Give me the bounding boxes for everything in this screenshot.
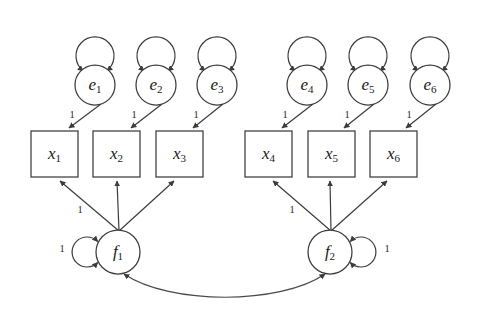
f2-loop xyxy=(350,237,376,267)
factor-covariance-layer xyxy=(124,274,325,297)
f2-loop-arc xyxy=(350,237,376,267)
f2-x5-arrow xyxy=(330,181,331,231)
f1-x3-arrow xyxy=(119,181,174,231)
e6-x6-coefficient: 1 xyxy=(406,109,411,120)
e3-x3-coefficient: 1 xyxy=(193,109,198,120)
f2-x4-arrow xyxy=(273,181,331,231)
f1-x1-coefficient: 1 xyxy=(77,204,82,215)
e1-x1-coefficient: 1 xyxy=(69,109,74,120)
f1-loop xyxy=(72,237,98,267)
e4-x4-coefficient: 1 xyxy=(282,109,287,120)
f2-x6-arrow xyxy=(331,181,387,231)
e5-x5-coefficient: 1 xyxy=(344,109,349,120)
f2-x4-coefficient: 1 xyxy=(289,204,294,215)
sem-path-diagram: e1e2e3e4e5e6x1x2x3x4x5x6f1f2 1111111111 xyxy=(0,0,485,324)
e2-x2-coefficient: 1 xyxy=(131,109,136,120)
f2-loop-value: 1 xyxy=(384,243,389,254)
diagram-canvas: e1e2e3e4e5e6x1x2x3x4x5x6f1f2 1111111111 xyxy=(0,0,485,324)
f1-loop-arc xyxy=(72,237,98,267)
f1-x1-arrow xyxy=(60,181,119,231)
f1-x2-arrow xyxy=(117,181,119,231)
f1-f2-cov xyxy=(124,274,325,297)
f1-loop-value: 1 xyxy=(59,243,64,254)
